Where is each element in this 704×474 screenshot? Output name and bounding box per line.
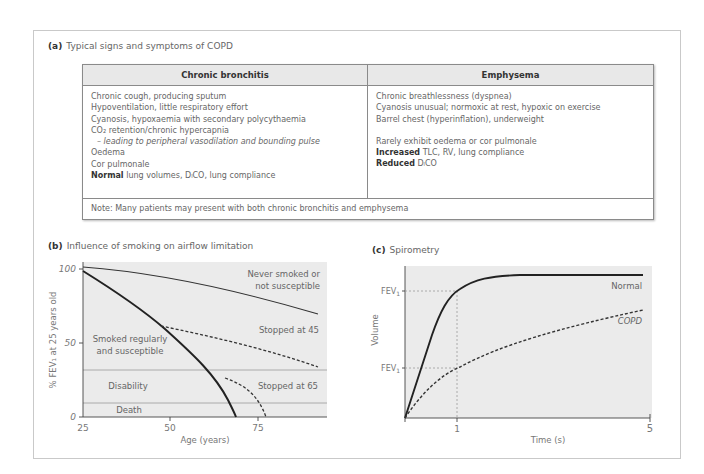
y-label-fev1-lower: FEV1 (381, 364, 400, 374)
x-tick-1: 1 (454, 424, 460, 434)
x-tick-75: 75 (252, 423, 263, 433)
charts-svg: 100 50 0 25 50 75 Age (years) % FEV₁ at … (0, 0, 704, 474)
y-label-fev1-upper: FEV1 (381, 287, 400, 297)
y-tick-0: 0 (70, 412, 76, 422)
label-death: Death (116, 405, 142, 415)
label-copd: COPD (618, 316, 643, 326)
label-stopped-at-45: Stopped at 45 (259, 325, 319, 335)
y-tick-50: 50 (65, 338, 77, 348)
x-tick-5: 5 (647, 423, 653, 434)
smoking-chart: 100 50 0 25 50 75 Age (years) % FEV₁ at … (48, 262, 327, 445)
label-normal: Normal (611, 281, 642, 291)
y-tick-100: 100 (59, 264, 76, 274)
x-axis-label: Time (s) (530, 435, 566, 445)
spirometry-chart: FEV1 FEV1 1 5 Time (s) Volume Normal COP… (370, 266, 653, 445)
label-stopped-at-65: Stopped at 65 (258, 381, 318, 391)
label-disability: Disability (108, 381, 147, 391)
x-axis-label: Age (years) (180, 435, 229, 445)
panel-c-title: (c)Spirometry (372, 245, 439, 255)
x-tick-25: 25 (77, 423, 88, 433)
x-tick-50: 50 (164, 423, 176, 433)
y-axis-label: Volume (370, 314, 380, 346)
y-axis-label: % FEV₁ at 25 years old (48, 292, 58, 389)
